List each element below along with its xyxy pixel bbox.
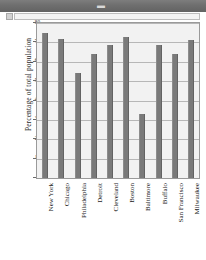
x-tick-label: Buffalo [161,183,169,204]
bar [188,40,194,178]
bar [75,73,81,178]
plot-frame [36,22,200,179]
x-tick-label: Baltimore [144,183,152,211]
x-tick-label: San Francisco [177,183,185,222]
x-tick-label: Cleveland [112,183,120,211]
bar [107,45,113,178]
x-tick-label: Milwaukee [193,183,201,215]
bar [91,54,97,178]
plot-inner [37,23,199,178]
x-tick-label: Boston [128,183,136,203]
x-tick-label: Philadelphia [80,183,88,218]
titlebar-glyph-icon: ▬ [96,1,106,10]
bar [172,54,178,178]
x-tick-label: Chicago [63,183,71,206]
bar [156,45,162,178]
bar [58,39,64,179]
bar [42,33,48,178]
x-tick-label: New York [47,183,55,211]
bar [139,114,145,178]
bar [123,37,129,178]
gridline [37,23,199,24]
x-tick-label: Detroit [96,183,104,203]
bar-chart: Percentage of total population 010203040… [0,18,206,260]
screenshot-page: ▬ Percentage of total population 0102030… [0,0,206,260]
